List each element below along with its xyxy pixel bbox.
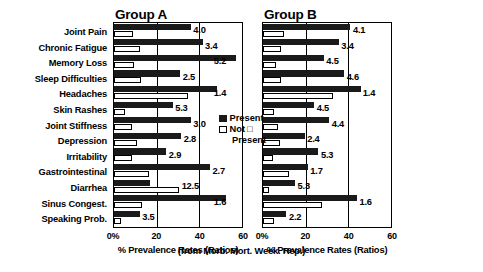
bar-present — [263, 164, 308, 170]
bar-row: 1.4 — [263, 85, 391, 101]
category-label: Sinus Congest. — [0, 197, 111, 213]
bar-present — [263, 55, 324, 61]
bar-not-present — [114, 93, 188, 99]
ratio-label: 4.1 — [353, 25, 365, 35]
ratio-label: 5.2 — [214, 56, 226, 66]
bar-row: 2.7 — [114, 163, 242, 179]
ratio-label: 1.6 — [359, 197, 371, 207]
ratio-label: 5.3 — [298, 181, 310, 191]
x-tick-label: 20 — [301, 231, 311, 241]
bar-not-present — [114, 31, 133, 37]
bar-row: 2.4 — [263, 132, 391, 148]
ratio-label: 4.6 — [347, 72, 359, 82]
bar-row: 1.6 — [263, 195, 391, 211]
bar-row: 4.5 — [263, 101, 391, 117]
x-tick-label: 40 — [344, 231, 354, 241]
category-label: Irritability — [0, 150, 111, 166]
category-label: Skin Rashes — [0, 103, 111, 119]
category-label: Sleep Difficulties — [0, 72, 111, 88]
source-note: (from Morb. Mort. Week. Rep.) — [0, 245, 483, 256]
chart-legend: Present Not □ Present — [219, 113, 266, 146]
category-label: Memory Loss — [0, 56, 111, 72]
ratio-label: 2.8 — [184, 134, 196, 144]
category-axis-labels: Joint PainChronic FatigueMemory LossSlee… — [0, 25, 111, 228]
bar-row: 3.4 — [263, 39, 391, 55]
bar-row: 4.1 — [263, 23, 391, 39]
ratio-label: 5.3 — [175, 103, 187, 113]
bar-present — [114, 211, 140, 217]
bar-not-present — [114, 218, 121, 224]
category-label: Diarrhea — [0, 181, 111, 197]
bar-row: 3.5 — [114, 210, 242, 226]
bar-not-present — [114, 202, 142, 208]
bar-not-present — [114, 109, 125, 115]
bar-not-present — [114, 46, 140, 52]
bar-not-present — [263, 93, 333, 99]
x-tick-label: 0% — [256, 231, 269, 241]
legend-item-not-present: Not □ — [219, 124, 266, 135]
bar-present — [263, 211, 286, 217]
bar-not-present — [263, 155, 273, 161]
category-label: Depression — [0, 134, 111, 150]
bar-present — [114, 117, 191, 123]
ratio-label: 4.4 — [332, 119, 344, 129]
ratio-label: 3.0 — [193, 119, 205, 129]
ratio-label: 3.5 — [142, 212, 154, 222]
bar-not-present — [263, 202, 322, 208]
ratio-label: 3.4 — [205, 41, 217, 51]
legend-label-not: Not — [230, 124, 246, 135]
bar-row: 4.5 — [263, 54, 391, 70]
panel-b-title: Group B — [264, 7, 317, 22]
bar-row: 3.4 — [114, 39, 242, 55]
panel-b-x-axis: 0%204060 — [262, 230, 392, 242]
bar-row: 5.2 — [114, 54, 242, 70]
bar-row: 1.4 — [114, 85, 242, 101]
x-tick-label: 20 — [152, 231, 162, 241]
x-tick-label: 0% — [107, 231, 120, 241]
ratio-label: 2.4 — [307, 134, 319, 144]
bar-row: 1.6 — [114, 195, 242, 211]
bar-not-present — [263, 62, 276, 68]
ratio-label: 4.0 — [193, 25, 205, 35]
legend-glyph-box-icon: □ — [247, 124, 253, 135]
legend-label-not-present-line2: Present — [219, 135, 266, 146]
chart-container: Joint PainChronic FatigueMemory LossSlee… — [0, 0, 483, 272]
legend-swatch-present-icon — [219, 115, 227, 123]
ratio-label: 4.5 — [317, 103, 329, 113]
bar-present — [263, 70, 344, 76]
bar-present — [114, 24, 191, 30]
bar-not-present — [114, 62, 134, 68]
bar-row: 2.2 — [263, 210, 391, 226]
bar-not-present — [263, 187, 269, 193]
bar-row: 2.5 — [114, 70, 242, 86]
ratio-label: 5.3 — [321, 150, 333, 160]
x-tick-label: 40 — [195, 231, 205, 241]
ratio-label: 2.9 — [169, 150, 181, 160]
x-tick-label: 60 — [238, 231, 248, 241]
bar-not-present — [114, 187, 179, 193]
bar-present — [114, 39, 203, 45]
panel-b-plot-area: 4.13.44.54.61.44.54.42.45.31.75.31.62.2 — [262, 22, 392, 228]
bar-not-present — [263, 46, 281, 52]
category-label: Joint Stiffness — [0, 119, 111, 135]
category-label: Joint Pain — [0, 25, 111, 41]
ratio-label: 2.2 — [289, 212, 301, 222]
bar-present — [263, 133, 305, 139]
panel-group-b: Group B 4.13.44.54.61.44.54.42.45.31.75.… — [262, 22, 392, 228]
bar-present — [114, 148, 166, 154]
ratio-label: 2.5 — [183, 72, 195, 82]
panel-a-title: Group A — [115, 7, 167, 22]
legend-item-present: Present — [219, 113, 266, 124]
bar-not-present — [114, 140, 137, 146]
bar-present — [263, 148, 318, 154]
ratio-label: 1.7 — [310, 166, 322, 176]
bar-not-present — [263, 171, 289, 177]
bar-present — [114, 164, 210, 170]
ratio-label: 12.5 — [182, 181, 199, 191]
panel-a-x-axis: 0%204060 — [113, 230, 243, 242]
bar-not-present — [114, 155, 132, 161]
bar-row: 2.9 — [114, 148, 242, 164]
bar-not-present — [114, 77, 141, 83]
bar-present — [263, 39, 339, 45]
legend-label-present: Present — [230, 113, 264, 124]
